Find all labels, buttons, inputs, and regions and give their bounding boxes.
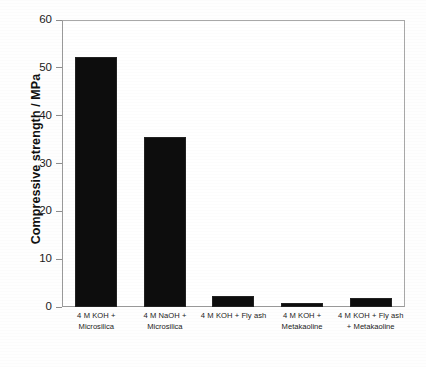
bar-slot — [62, 20, 131, 307]
y-tick-label: 10 — [39, 252, 52, 265]
bars-layer — [62, 20, 405, 307]
y-tick-label: 60 — [39, 13, 52, 26]
bar[interactable] — [350, 298, 392, 307]
x-axis-category-labels: 4 M KOH + Microsilica4 M NaOH + Microsil… — [62, 311, 405, 367]
bar[interactable] — [212, 296, 254, 307]
bar[interactable] — [281, 303, 323, 307]
y-tick-label: 20 — [39, 204, 52, 217]
x-category-label: 4 M KOH + Microsilica — [62, 311, 131, 332]
bar-slot — [268, 20, 337, 307]
x-category-label: 4 M NaOH + Microsilica — [131, 311, 200, 332]
bar[interactable] — [144, 137, 186, 307]
x-category-label: 4 M KOH + Fly ash — [199, 311, 268, 322]
y-tick-label: 0 — [46, 300, 52, 313]
bar-chart-figure: Compressive strength / MPa 0102030405060… — [0, 0, 426, 367]
bar-slot — [336, 20, 405, 307]
y-tick-label: 40 — [39, 109, 52, 122]
bar-slot — [199, 20, 268, 307]
bar-slot — [131, 20, 200, 307]
y-tick-label: 50 — [39, 61, 52, 74]
y-tick-label: 30 — [39, 157, 52, 170]
bar[interactable] — [75, 57, 117, 307]
x-category-label: 4 M KOH + Fly ash + Metakaoline — [336, 311, 405, 332]
x-category-label: 4 M KOH + Metakaoline — [268, 311, 337, 332]
